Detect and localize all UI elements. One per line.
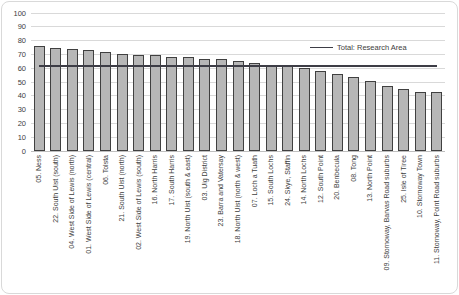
x-axis-label: 22. South Uist (south) (49, 155, 63, 295)
bar (150, 55, 161, 151)
x-axis-label: 05. Ness (32, 155, 46, 295)
bar-chart: 0102030405060708090100 05. Ness22. South… (0, 0, 459, 295)
x-axis-label: 15. South Lochs (264, 155, 278, 295)
y-tick-label: 0 (0, 147, 26, 156)
x-axis-label: 08. Tong (347, 155, 361, 295)
x-axis-label: 18. North Uist (north & west) (231, 155, 245, 295)
x-axis-label: 25. Isle of Tiree (397, 155, 411, 295)
y-tick-label: 70 (0, 50, 26, 59)
x-axis-label: 03. Uig District (198, 155, 212, 295)
bar (249, 63, 260, 151)
y-tick-label: 60 (0, 64, 26, 73)
x-axis-label: 14. North Lochs (297, 155, 311, 295)
y-tick-label: 100 (0, 9, 26, 18)
bar (133, 55, 144, 151)
x-axis-label: 01. West Side of Lewis (central) (82, 155, 96, 295)
bar (67, 49, 78, 151)
x-axis-label: 11. Stornoway, Point Road suburbs (430, 155, 444, 295)
x-axis-label: 07. Loch a Tuath (248, 155, 262, 295)
bar (166, 57, 177, 151)
bar (34, 46, 45, 151)
gridline (31, 40, 445, 41)
y-tick-label: 50 (0, 78, 26, 87)
x-axis-label: 12. South Point (314, 155, 328, 295)
x-axis-label: 04. West Side of Lewis (north) (65, 155, 79, 295)
x-axis-label: 06. Tolsta (99, 155, 113, 295)
bar (315, 71, 326, 151)
bar (183, 57, 194, 151)
bar (299, 68, 310, 151)
y-tick-label: 10 (0, 133, 26, 142)
bar (348, 77, 359, 151)
bar (266, 65, 277, 151)
bar (431, 92, 442, 151)
legend-line-icon (310, 47, 333, 48)
bar (332, 74, 343, 151)
bar (415, 92, 426, 151)
x-axis-label: 21. South Uist (north) (115, 155, 129, 295)
x-axis-label: 16. North Harris (148, 155, 162, 295)
total-reference-line (39, 65, 436, 67)
y-tick-label: 40 (0, 91, 26, 100)
bar (216, 59, 227, 151)
y-tick-label: 20 (0, 119, 26, 128)
bar (398, 89, 409, 151)
x-axis-label: 19. North Uist (south & east) (181, 155, 195, 295)
bar (282, 65, 293, 151)
gridline (31, 26, 445, 27)
x-axis-label: 20. Benbecula (330, 155, 344, 295)
bar (199, 59, 210, 151)
y-tick-label: 90 (0, 22, 26, 31)
x-axis-label: 24. Skye, Staffin (281, 155, 295, 295)
y-axis: 0102030405060708090100 (0, 13, 26, 151)
y-tick-label: 30 (0, 105, 26, 114)
x-axis-label: 09. Stornoway, Barvas Road suburbs (380, 155, 394, 295)
legend: Total: Research Area (310, 43, 407, 52)
x-axis-label: 17. South Harris (165, 155, 179, 295)
gridline (31, 13, 445, 14)
bar (117, 54, 128, 151)
bar (365, 81, 376, 151)
bar (382, 86, 393, 151)
x-axis-label: 02. West Side of Lewis (south) (132, 155, 146, 295)
y-tick-label: 80 (0, 36, 26, 45)
legend-label: Total: Research Area (337, 43, 407, 52)
x-axis-label: 13. North Point (363, 155, 377, 295)
x-axis-label: 10. Stornoway Town (413, 155, 427, 295)
x-axis-label: 23. Barra and Vatersay (214, 155, 228, 295)
bar (100, 52, 111, 151)
bar (233, 61, 244, 151)
plot-area (31, 13, 445, 152)
bar (50, 48, 61, 152)
x-axis: 05. Ness22. South Uist (south)04. West S… (31, 155, 445, 295)
